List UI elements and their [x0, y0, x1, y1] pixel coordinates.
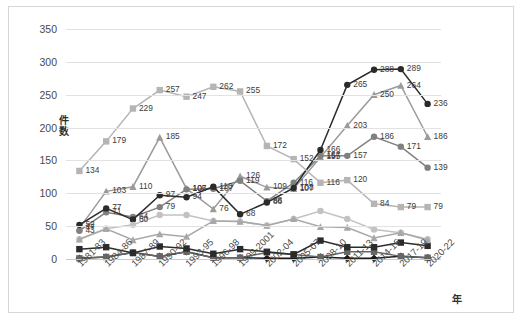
data-label: 157	[353, 151, 367, 160]
data-label: 262	[219, 82, 233, 91]
data-point	[317, 147, 323, 153]
data-label: 79	[407, 202, 416, 211]
data-point	[344, 82, 350, 88]
data-point	[371, 134, 377, 140]
data-label: 110	[219, 182, 232, 191]
data-label: 289	[407, 64, 421, 73]
data-label: 79	[434, 202, 443, 211]
data-label: 236	[434, 99, 448, 108]
data-label: 97	[166, 190, 175, 199]
data-label: 203	[353, 121, 367, 130]
data-point	[398, 204, 404, 210]
y-tick-label: 100	[11, 188, 57, 198]
data-label: 86	[273, 197, 282, 206]
data-label: 186	[434, 132, 448, 141]
data-point	[237, 211, 243, 217]
y-tick-label: 150	[11, 155, 57, 165]
data-label: 134	[85, 166, 99, 175]
data-point	[157, 204, 163, 210]
data-point	[157, 212, 163, 218]
data-point	[398, 66, 404, 72]
data-label: 139	[434, 163, 448, 172]
data-label: 76	[219, 204, 228, 213]
data-label: 60	[139, 215, 148, 224]
y-tick-label: 50	[11, 221, 57, 231]
data-label: 79	[166, 202, 175, 211]
data-label: 166	[326, 145, 340, 154]
gridline	[66, 160, 441, 161]
data-label: 52	[85, 220, 94, 229]
data-label: 288	[380, 65, 394, 74]
data-label: 84	[380, 199, 389, 208]
data-point	[183, 186, 189, 192]
data-label: 171	[407, 142, 421, 151]
data-label: 119	[246, 176, 259, 185]
y-tick-label: 350	[11, 24, 57, 34]
data-point	[424, 164, 430, 170]
data-point	[371, 226, 377, 232]
data-label: 110	[139, 182, 152, 191]
data-label: 257	[166, 85, 180, 94]
data-label: 68	[246, 209, 255, 218]
gridline	[66, 128, 441, 129]
data-point	[344, 177, 350, 183]
y-axis-ticks: 050100150200250300350	[9, 21, 61, 267]
data-label: 108	[300, 183, 314, 192]
data-label: 103	[112, 186, 126, 195]
data-label: 120	[353, 175, 367, 184]
data-point	[290, 185, 296, 191]
data-label: 250	[380, 90, 394, 99]
data-label: 186	[380, 132, 394, 141]
y-tick-label: 0	[11, 254, 57, 264]
data-point	[424, 133, 431, 140]
gridline	[66, 226, 441, 227]
data-point	[264, 143, 270, 149]
data-point	[157, 87, 163, 93]
data-point	[398, 143, 404, 149]
data-point	[317, 180, 323, 186]
data-label: 109	[273, 182, 287, 191]
data-point	[156, 134, 163, 141]
data-point	[183, 212, 189, 218]
x-axis-labels: 1981-831984-861987-891990-921993-951996-…	[66, 261, 441, 321]
y-tick-label: 250	[11, 90, 57, 100]
data-point	[103, 205, 109, 211]
data-label: 179	[112, 136, 126, 145]
data-point	[371, 201, 377, 207]
data-point	[210, 84, 216, 90]
data-point	[264, 199, 270, 205]
data-point	[103, 138, 109, 144]
data-point	[424, 101, 430, 107]
chart-container: 件数 050100150200250300350 471031101851077…	[8, 6, 514, 313]
data-point	[344, 216, 350, 222]
y-tick-label: 200	[11, 123, 57, 133]
data-label: 172	[273, 141, 287, 150]
data-point	[237, 178, 243, 184]
data-label: 255	[246, 86, 260, 95]
data-point	[130, 105, 136, 111]
data-label: 265	[353, 80, 367, 89]
data-label: 116	[326, 178, 339, 187]
data-point	[371, 67, 377, 73]
data-point	[183, 194, 189, 200]
data-label: 152	[300, 154, 314, 163]
data-label: 94	[193, 192, 202, 201]
gridline	[66, 29, 441, 30]
data-label: 229	[139, 104, 153, 113]
data-label: 247	[193, 92, 207, 101]
data-point	[317, 208, 323, 214]
data-point	[237, 88, 243, 94]
data-point	[76, 228, 82, 234]
plot-area: 4710311018510776126109107155203250264186…	[66, 29, 441, 259]
data-point	[76, 168, 82, 174]
data-label: 77	[112, 203, 121, 212]
x-axis-title: 年	[452, 291, 462, 306]
data-point	[397, 82, 404, 89]
data-point	[344, 153, 350, 159]
gridline	[66, 62, 441, 63]
data-label: 264	[407, 81, 421, 90]
data-point	[424, 204, 430, 210]
y-tick-label: 300	[11, 57, 57, 67]
data-label: 185	[166, 132, 180, 141]
data-point	[210, 184, 216, 190]
